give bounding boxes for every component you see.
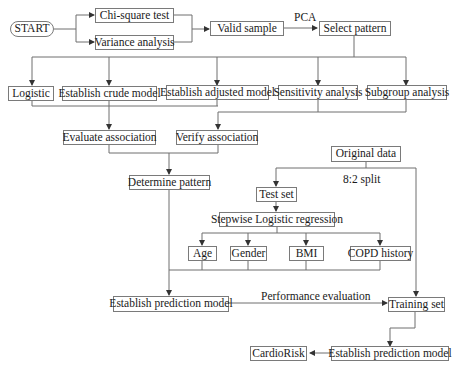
- node-age: Age: [188, 246, 217, 261]
- node-chi-square-test: Chi-square test: [95, 8, 174, 23]
- node-determine-pattern: Determine pattern: [129, 175, 210, 190]
- node-original-data: Original data: [331, 146, 401, 162]
- connector-lines: [0, 0, 457, 373]
- edge-label-split: 8:2 split: [343, 173, 380, 185]
- node-training-set: Training set: [388, 297, 445, 312]
- node-bmi: BMI: [289, 246, 324, 261]
- node-select-pattern: Select pattern: [319, 21, 391, 36]
- node-establish-prediction-model: Establish prediction model: [113, 296, 229, 312]
- node-copd-history: COPD history: [350, 246, 411, 261]
- node-establish-crude-model: Establish crude model: [62, 86, 157, 101]
- node-gender: Gender: [230, 246, 267, 261]
- node-evaluate-association: Evaluate association: [63, 130, 156, 145]
- edge-label-performance-evaluation: Performance evaluation: [261, 290, 371, 302]
- edge-label-pca: PCA: [294, 11, 316, 23]
- node-subgroup-analysis: Subgroup analysis: [367, 85, 447, 100]
- node-sensitivity-analysis: Sensitivity analysis: [278, 85, 358, 100]
- node-test-set: Test set: [256, 187, 297, 202]
- node-variance-analysis: Variance analysis: [95, 35, 174, 50]
- node-verify-association: Verify association: [176, 130, 258, 145]
- flowchart-canvas: START Chi-square test Variance analysis …: [0, 0, 457, 373]
- node-cardiorisk: CardioRisk: [250, 346, 307, 361]
- node-establish-adjusted-model: Establish adjusted model: [166, 85, 269, 100]
- node-start: START: [10, 21, 54, 37]
- node-establish-prediction-model-final: Establish prediction model: [331, 346, 449, 361]
- node-stepwise-logistic-regression: Stepwise Logistic regression: [219, 212, 335, 227]
- node-valid-sample: Valid sample: [210, 21, 284, 36]
- node-logistic: Logistic: [8, 86, 54, 101]
